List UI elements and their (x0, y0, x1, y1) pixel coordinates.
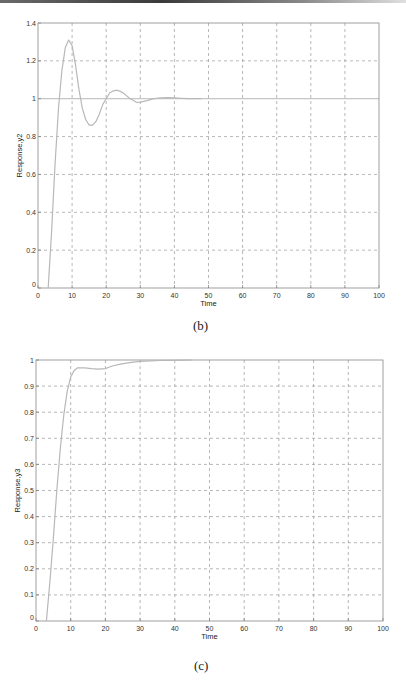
gridlines (38, 23, 379, 288)
x-tick-label: 40 (171, 292, 179, 299)
y-tick-label: 0.6 (26, 171, 36, 178)
y-tick-label: 0.7 (24, 435, 34, 442)
y-axis-label: Response,y2 (15, 134, 24, 178)
x-tick-label: 90 (344, 625, 352, 632)
y-tick-label: 0 (32, 281, 36, 288)
x-tick-label: 0 (36, 292, 40, 299)
x-tick-label: 80 (310, 625, 318, 632)
x-tick-label: 100 (377, 625, 389, 632)
x-tick-label: 30 (136, 625, 144, 632)
y-tick-label: 0.6 (24, 461, 34, 468)
y-tick-label: 1 (30, 357, 34, 364)
gridlines (36, 360, 383, 621)
y-tick-label: 1.2 (26, 57, 36, 64)
x-tick-label: 60 (240, 625, 248, 632)
y-tick-label: 0.8 (24, 409, 34, 416)
x-tick-label: 20 (102, 625, 110, 632)
y-tick-label: 1.4 (26, 20, 36, 27)
y-tick-label: 0.3 (24, 539, 34, 546)
x-tick-label: 70 (275, 625, 283, 632)
y-tick-label: 0.2 (26, 247, 36, 254)
x-tick-label: 30 (136, 292, 144, 299)
y-tick-label: 0.4 (24, 513, 34, 520)
x-tick-label: 10 (68, 292, 76, 299)
y-tick-label: 0.5 (24, 487, 34, 494)
x-axis-label: Time (201, 632, 217, 641)
chart-c-plot: 010203040506070809010000.10.20.30.40.50.… (0, 345, 406, 690)
chart-b-plot: 010203040506070809010000.20.40.60.811.21… (0, 0, 406, 345)
x-axis-label: Time (200, 299, 216, 308)
x-tick-label: 100 (373, 292, 385, 299)
chart-b: 010203040506070809010000.20.40.60.811.21… (0, 0, 406, 345)
y-tick-label: 0.2 (24, 565, 34, 572)
chart-c: 010203040506070809010000.10.20.30.40.50.… (0, 345, 406, 690)
x-tick-label: 40 (171, 625, 179, 632)
caption-b: (b) (193, 318, 208, 334)
x-tick-label: 70 (273, 292, 281, 299)
series-line-y2 (48, 40, 202, 288)
x-tick-label: 50 (205, 292, 213, 299)
y-axis-label: Response,y3 (13, 469, 22, 513)
y-tick-label: 1 (32, 95, 36, 102)
x-tick-label: 10 (67, 625, 75, 632)
y-tick-label: 0.8 (26, 133, 36, 140)
y-tick-label: 0 (30, 614, 34, 621)
x-tick-label: 0 (34, 625, 38, 632)
x-tick-label: 60 (239, 292, 247, 299)
x-tick-label: 20 (102, 292, 110, 299)
x-tick-label: 90 (341, 292, 349, 299)
y-tick-label: 0.9 (24, 383, 34, 390)
x-tick-label: 80 (307, 292, 315, 299)
x-tick-label: 50 (206, 625, 214, 632)
y-tick-label: 0.1 (24, 591, 34, 598)
caption-c: (c) (194, 658, 208, 674)
y-tick-label: 0.4 (26, 209, 36, 216)
